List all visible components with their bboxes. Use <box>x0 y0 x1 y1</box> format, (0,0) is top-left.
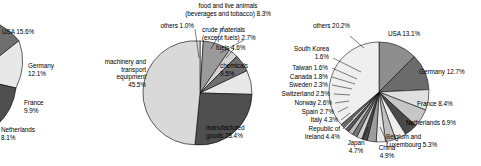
right-pie-label-canada: Canada 1.8% <box>272 73 328 81</box>
leader-spain <box>338 107 348 112</box>
middle-pie-label-fuels: fuels 4.6% <box>216 44 272 52</box>
right-pie-label-usa: USA 13.1% <box>388 30 444 38</box>
right-pie-label-switzerland: Switzerland 2.5% <box>266 90 330 98</box>
leader-others-right <box>350 36 364 48</box>
leader-sweden <box>332 85 352 89</box>
leader-canada <box>332 77 355 84</box>
leader-ireland <box>343 119 353 129</box>
middle-pie-label-manufactured-goods: manufactured goods 28.4% <box>206 124 276 139</box>
right-pie-label-spain: Spain 2.7% <box>276 108 334 116</box>
right-pie-label-others: others 20.2% <box>300 22 350 30</box>
right-pie-label-italy: Italy 4.3% <box>280 116 338 124</box>
middle-pie-label-chemicals: chemicals 9.5% <box>220 62 276 77</box>
leader-south-korea <box>333 58 361 72</box>
right-pie-label-netherlands: Netherlands 6.9% <box>406 119 481 127</box>
right-pie-label-germany: Germany 12.7% <box>419 68 481 76</box>
leader-norway <box>335 101 349 103</box>
right-pie-label-republic-of-ireland: Republic of Ireland 4.4% <box>278 125 340 140</box>
left-pie-label-germany: Germany 12.1% <box>28 62 54 77</box>
right-pie-label-sweden: Sweden 2.3% <box>270 81 328 89</box>
right-pie-label-japan: Japan 4.7% <box>338 139 374 154</box>
right-pie-label-belgium-luxembourg: Belgium and Luxembourg 5.3% <box>386 133 470 148</box>
right-pie-label-south-korea: South Korea 1.6% <box>275 45 329 60</box>
leader-japan <box>363 127 368 139</box>
right-pie-label-france: France 8.4% <box>417 100 481 108</box>
middle-pie-label-machinery: machinery and transport equipment 45.5% <box>88 58 146 88</box>
leader-others <box>195 29 199 58</box>
right-pie-label-taiwan: Taiwan 1.6% <box>274 64 328 72</box>
left-pie-label-usa: USA 15.6% <box>2 28 34 36</box>
right-pie-label-norway: Norway 2.6% <box>270 99 332 107</box>
pie-chart-figure: USA 15.6% Germany 12.1% France 9.9% Neth… <box>0 0 481 166</box>
left-pie-label-france: France 9.9% <box>24 99 44 114</box>
leader-taiwan <box>332 68 357 79</box>
middle-pie-label-food: food and live animals (beverages and tob… <box>176 2 280 17</box>
middle-pie-label-others: others 1.0% <box>132 22 194 30</box>
middle-pie-label-crude: crude materials (except fuels) 2.7% <box>202 26 286 41</box>
left-pie-label-netherlands: Netherlands 8.1% <box>1 126 35 141</box>
leader-switzerland <box>334 94 350 95</box>
leader-italy <box>341 113 350 120</box>
